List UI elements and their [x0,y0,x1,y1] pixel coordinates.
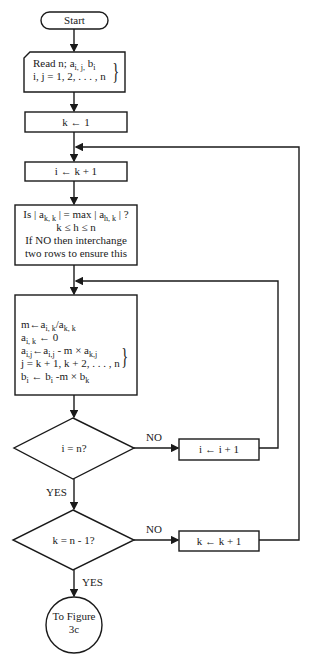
read-brace-icon: } [112,59,119,83]
init-k-label: k ← 1 [25,116,127,129]
decision-i-label: i = n? [14,442,134,455]
inc-k-label: k ← k + 1 [179,535,259,548]
start-label: Start [41,14,108,27]
decision-k-yes-label: YES [82,576,103,589]
decision-i-yes-label: YES [46,486,67,499]
connector-label: To Figure 3c [46,610,102,636]
eliminate-label: m←ai, k/ak, k ai, k ← 0 ai,j←ai,j - m × … [21,318,120,383]
decision-k-label: k = n - 1? [13,534,134,547]
decision-k-no-label: NO [146,523,162,536]
pivot-label: Is | ak, k | = max | ah, k | ? k ≤ h ≤ n… [15,208,137,260]
init-i-label: i ← k + 1 [25,165,127,178]
read-label: Read n; ai, j, bi i, j = 1, 2, . . . , n [33,57,106,83]
decision-i-no-label: NO [146,431,162,444]
inc-i-label: i ← i + 1 [179,443,259,456]
eliminate-brace-icon: } [121,344,128,368]
